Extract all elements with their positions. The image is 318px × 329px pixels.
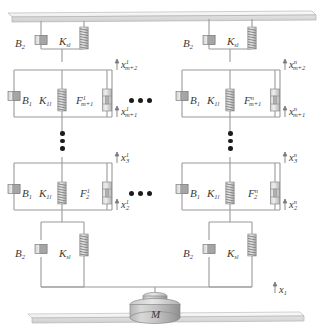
label-spring-K1l-right-upper: K1l — [207, 91, 219, 107]
label-spring-K1l-left-lower: K1l — [39, 184, 51, 200]
damper-B2-left-bottom — [35, 245, 47, 254]
horizontal-ellipsis-upper — [129, 98, 152, 103]
label-spring-K1l-right-lower: K1l — [207, 184, 219, 200]
label-displacement-x3-right: xn3 — [289, 148, 297, 164]
label-spring-Ksl-right-bottom: Ksl — [227, 244, 239, 260]
mechanical-network-diagram — [0, 0, 318, 329]
label-damper-B1-left-lower: B1 — [22, 184, 32, 200]
label-displacement-x3-left: x13 — [121, 148, 129, 164]
damper-B2-right-bottom — [203, 245, 215, 254]
damper-B2-right-top — [203, 36, 215, 45]
horizontal-ellipsis-lower — [129, 191, 152, 196]
label-spring-K1l-left-upper: K1l — [39, 91, 51, 107]
spring-K1l-left-upper — [58, 89, 66, 111]
spring-Ksl-left-top — [80, 27, 88, 49]
actuator-F-left-lower — [102, 182, 111, 204]
label-force-F-right-upper: Fnm+1 — [244, 91, 261, 107]
label-force-F-left-upper: F1m+1 — [76, 91, 93, 107]
damper-B1-left-upper — [8, 92, 20, 101]
spring-K1l-left-lower — [58, 182, 66, 204]
label-damper-B2-right-top: B2 — [183, 34, 193, 50]
spring-K1l-right-upper — [226, 89, 234, 111]
spring-K1l-right-lower — [226, 182, 234, 204]
spring-Ksl-right-top — [248, 27, 256, 49]
label-displacement-x2-right: xn2 — [289, 195, 297, 211]
actuator-F-right-lower — [270, 182, 279, 204]
label-mass-M: M — [151, 305, 160, 321]
label-displacement-x-m1-right: xnm+1 — [289, 102, 305, 118]
label-damper-B2-right-bottom: B2 — [183, 244, 193, 260]
label-damper-B2-left-bottom: B2 — [15, 244, 25, 260]
label-damper-B1-right-upper: B1 — [190, 91, 200, 107]
spring-Ksl-right-bottom — [248, 234, 256, 256]
label-displacement-x-m1-left: x1m+1 — [121, 102, 137, 118]
damper-B2-left-top — [35, 36, 47, 45]
damper-B1-left-lower — [8, 185, 20, 194]
damper-B1-right-upper — [176, 92, 188, 101]
vertical-ellipsis-right — [228, 131, 233, 151]
label-displacement-x-m2-right: xnm+2 — [289, 55, 305, 71]
actuator-F-left-upper — [102, 89, 111, 111]
damper-B1-right-lower — [176, 185, 188, 194]
label-displacement-x-m2-left: x1m+2 — [121, 55, 137, 71]
label-spring-Ksl-left-top: Ksl — [59, 32, 71, 48]
label-damper-B1-left-upper: B1 — [22, 91, 32, 107]
label-displacement-x1-base: x1 — [279, 280, 287, 296]
label-force-F-left-lower: F12 — [80, 184, 89, 200]
actuator-F-right-upper — [270, 89, 279, 111]
label-force-F-right-lower: Fn2 — [248, 184, 257, 200]
label-displacement-x2-left: x12 — [121, 195, 129, 211]
spring-Ksl-left-bottom — [80, 234, 88, 256]
ceiling-support — [8, 11, 316, 22]
vertical-ellipsis-left — [60, 131, 65, 151]
label-damper-B2-left-top: B2 — [15, 34, 25, 50]
label-spring-Ksl-right-top: Ksl — [227, 32, 239, 48]
label-damper-B1-right-lower: B1 — [190, 184, 200, 200]
label-spring-Ksl-left-bottom: Ksl — [59, 244, 71, 260]
